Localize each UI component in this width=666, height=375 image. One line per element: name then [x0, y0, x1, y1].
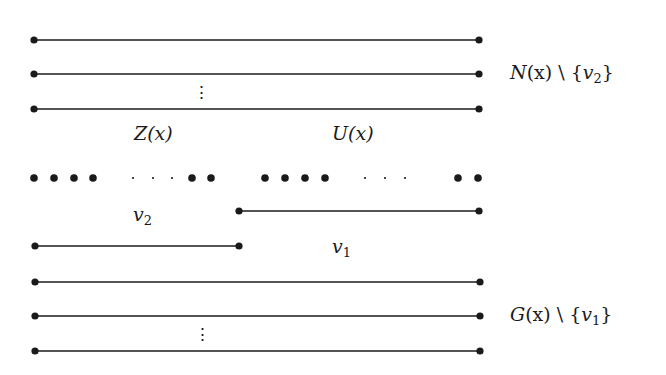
ellipsis-dot: [132, 177, 134, 179]
vertex-dot: [30, 70, 37, 77]
label-g-minus-v1: G(x) \ {v1}: [510, 303, 612, 328]
vertex-dot: [475, 36, 482, 43]
vertex-dot: [475, 105, 482, 112]
label-v1: v1: [332, 235, 351, 260]
vertex-dot: [476, 312, 483, 319]
vertex-dot: [30, 105, 37, 112]
label-neighborhood-minus-v2: N(x) \ {v2}: [510, 61, 614, 86]
label-u-region: U(x): [332, 122, 374, 144]
vertex-dot: [30, 36, 37, 43]
vertex-dot: [31, 242, 38, 249]
vertex-dot: [31, 312, 38, 319]
vertical-ellipsis-top: ⋮: [193, 82, 210, 102]
ellipsis-dot: [384, 177, 386, 179]
ellipsis-dot: [364, 177, 366, 179]
label-z-region: Z(x): [134, 122, 173, 144]
ellipsis-dot: [152, 177, 154, 179]
vertex-dot: [281, 174, 289, 182]
vertex-dot: [207, 174, 215, 182]
diagram-canvas: N(x) \ {v2} Z(x) U(x) v2 v1 G(x) \ {v1} …: [0, 0, 666, 375]
vertex-dot: [31, 278, 38, 285]
vertex-dot: [235, 207, 242, 214]
vertex-dot: [188, 174, 196, 182]
vertex-dot: [30, 174, 38, 182]
vertex-dot: [31, 347, 38, 354]
vertex-dot: [261, 174, 269, 182]
vertex-dot: [70, 174, 78, 182]
vertex-dot: [321, 174, 329, 182]
vertex-dot: [301, 174, 309, 182]
vertex-dot: [235, 242, 242, 249]
vertex-dot: [454, 174, 462, 182]
vertex-dot: [476, 278, 483, 285]
vertex-dot: [474, 174, 482, 182]
ellipsis-dot: [404, 177, 406, 179]
vertex-dot: [89, 174, 97, 182]
vertical-ellipsis-bottom: ⋮: [194, 324, 211, 344]
vertex-dot: [50, 174, 58, 182]
label-v2: v2: [133, 203, 152, 228]
vertex-dot: [475, 70, 482, 77]
ellipsis-dot: [171, 177, 173, 179]
vertex-dot: [476, 347, 483, 354]
vertex-dot: [475, 207, 482, 214]
